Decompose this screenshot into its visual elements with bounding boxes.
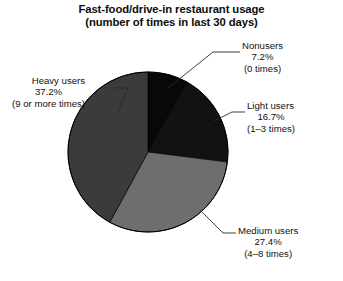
pie-slices bbox=[68, 72, 228, 232]
slice-label-nonusers-percent: 7.2% bbox=[242, 51, 283, 62]
slice-label-light-users-note: (1–3 times) bbox=[247, 123, 295, 134]
leader-line-medium-users bbox=[200, 210, 236, 233]
slice-label-medium-users-percent: 27.4% bbox=[238, 236, 298, 247]
slice-label-nonusers-name: Nonusers bbox=[242, 40, 283, 51]
slice-label-heavy-users-percent: 37.2% bbox=[12, 86, 85, 97]
slice-label-heavy-users: Heavy users 37.2% (9 or more times) bbox=[12, 75, 85, 109]
slice-label-medium-users-note: (4–8 times) bbox=[238, 248, 298, 259]
slice-label-light-users: Light users 16.7% (1–3 times) bbox=[247, 100, 295, 134]
slice-label-nonusers: Nonusers 7.2% (0 times) bbox=[242, 40, 283, 74]
slice-label-light-users-name: Light users bbox=[247, 100, 295, 111]
slice-label-heavy-users-name: Heavy users bbox=[12, 75, 85, 86]
slice-label-heavy-users-note: (9 or more times) bbox=[12, 98, 85, 109]
slice-label-nonusers-note: (0 times) bbox=[242, 63, 283, 74]
slice-label-light-users-percent: 16.7% bbox=[247, 111, 295, 122]
slice-label-medium-users-name: Medium users bbox=[238, 225, 298, 236]
pie-chart-figure: Fast-food/drive-in restaurant usage (num… bbox=[0, 0, 343, 281]
slice-label-medium-users: Medium users 27.4% (4–8 times) bbox=[238, 225, 298, 259]
